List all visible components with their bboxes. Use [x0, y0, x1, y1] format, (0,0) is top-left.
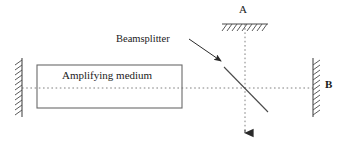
beamsplitter-callout-arrow — [189, 39, 221, 61]
left-mirror — [15, 58, 22, 117]
right-mirror-b — [313, 58, 320, 117]
diagram-canvas — [0, 0, 344, 148]
mirror-b-label: B — [325, 79, 332, 90]
beamsplitter-label: Beamsplitter — [116, 34, 170, 45]
mirror-a-label: A — [239, 4, 247, 15]
optics-diagram: Amplifying medium Beamsplitter A B — [0, 0, 344, 148]
beamsplitter-line — [224, 67, 268, 112]
amplifying-medium-label: Amplifying medium — [62, 70, 152, 81]
